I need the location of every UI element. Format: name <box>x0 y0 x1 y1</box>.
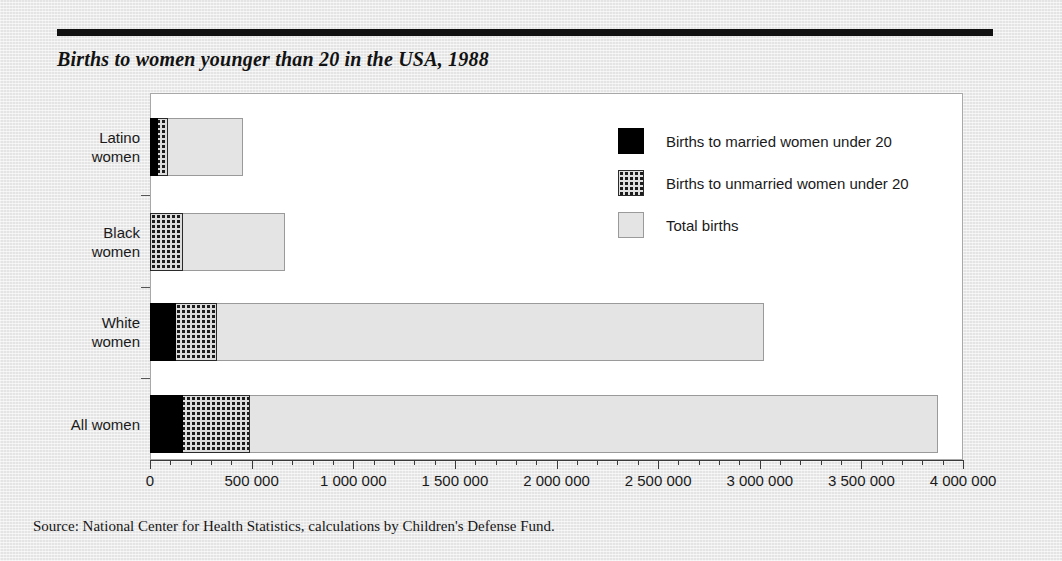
category-label: Whitewomen <box>0 313 140 351</box>
category-label-line: All women <box>0 415 140 434</box>
x-axis-major-tick <box>252 460 253 469</box>
x-axis-minor-tick <box>272 460 273 465</box>
solid-black-swatch-icon <box>618 128 644 154</box>
x-axis-minor-tick <box>231 460 232 465</box>
x-axis-minor-tick <box>678 460 679 465</box>
y-axis-tick <box>141 378 150 379</box>
x-axis-minor-tick <box>841 460 842 465</box>
category-label-line: White <box>0 313 140 332</box>
x-axis-tick-label: 4 000 000 <box>930 472 997 489</box>
x-axis-minor-tick <box>943 460 944 465</box>
x-axis-minor-tick <box>475 460 476 465</box>
category-label-line: Latino <box>0 128 140 147</box>
x-axis-minor-tick <box>313 460 314 465</box>
x-axis-major-tick <box>455 460 456 469</box>
x-axis-tick-label: 2 500 000 <box>625 472 692 489</box>
x-axis-minor-tick <box>170 460 171 465</box>
x-axis-tick-label: 500 000 <box>225 472 279 489</box>
x-axis-minor-tick <box>719 460 720 465</box>
page-title: Births to women younger than 20 in the U… <box>57 48 489 71</box>
bar-segment-married <box>150 303 176 361</box>
chart-legend: Births to married women under 20 Births … <box>618 120 909 246</box>
x-axis-minor-tick <box>414 460 415 465</box>
bar-segment-married <box>150 395 183 453</box>
bar-segment-married <box>150 118 158 176</box>
x-axis-major-tick <box>963 460 964 469</box>
legend-label-unmarried: Births to unmarried women under 20 <box>666 175 909 192</box>
x-axis-minor-tick <box>374 460 375 465</box>
x-axis-minor-tick <box>292 460 293 465</box>
x-axis-minor-tick <box>577 460 578 465</box>
bar-segment-total <box>150 303 764 361</box>
category-label-line: women <box>0 332 140 351</box>
x-axis-minor-tick <box>394 460 395 465</box>
bar-group <box>150 395 963 453</box>
x-axis-minor-tick <box>800 460 801 465</box>
x-axis-major-tick <box>353 460 354 469</box>
category-label-line: Black <box>0 223 140 242</box>
x-axis-tick-label: 1 500 000 <box>422 472 489 489</box>
bar-segment-total <box>150 395 938 453</box>
category-label: Blackwomen <box>0 223 140 261</box>
legend-label-total: Total births <box>666 217 739 234</box>
x-axis-major-tick <box>861 460 862 469</box>
x-axis-minor-tick <box>211 460 212 465</box>
category-label-line: women <box>0 242 140 261</box>
x-axis-minor-tick <box>617 460 618 465</box>
y-axis-tick <box>141 287 150 288</box>
x-axis-minor-tick <box>191 460 192 465</box>
x-axis-tick-label: 3 000 000 <box>726 472 793 489</box>
light-gray-swatch-icon <box>618 212 644 238</box>
x-axis-minor-tick <box>882 460 883 465</box>
x-axis-minor-tick <box>821 460 822 465</box>
x-axis-minor-tick <box>333 460 334 465</box>
category-label: All women <box>0 415 140 434</box>
x-axis-minor-tick <box>516 460 517 465</box>
legend-label-married: Births to married women under 20 <box>666 133 892 150</box>
x-axis-tick-label: 3 500 000 <box>828 472 895 489</box>
stippled-swatch-icon <box>618 170 644 196</box>
x-axis-minor-tick <box>780 460 781 465</box>
category-label-line: women <box>0 147 140 166</box>
x-axis-minor-tick <box>902 460 903 465</box>
legend-item-married: Births to married women under 20 <box>618 120 909 162</box>
legend-item-total: Total births <box>618 204 909 246</box>
x-axis-minor-tick <box>496 460 497 465</box>
x-axis-minor-tick <box>597 460 598 465</box>
x-axis-tick-label: 1 000 000 <box>320 472 387 489</box>
x-axis-tick-label: 0 <box>146 472 154 489</box>
x-axis-major-tick <box>760 460 761 469</box>
source-caption: Source: National Center for Health Stati… <box>33 518 555 535</box>
y-axis-tick <box>141 195 150 196</box>
bar-group <box>150 303 963 361</box>
x-axis-major-tick <box>557 460 558 469</box>
x-axis-minor-tick <box>739 460 740 465</box>
x-axis-major-tick <box>658 460 659 469</box>
x-axis-tick-label: 2 000 000 <box>523 472 590 489</box>
bar-segment-unmarried <box>150 213 183 271</box>
x-axis-minor-tick <box>638 460 639 465</box>
x-axis-minor-tick <box>699 460 700 465</box>
category-label: Latinowomen <box>0 128 140 166</box>
x-axis-minor-tick <box>536 460 537 465</box>
header-rule <box>57 29 993 36</box>
x-axis-major-tick <box>150 460 151 469</box>
x-axis-minor-tick <box>435 460 436 465</box>
legend-item-unmarried: Births to unmarried women under 20 <box>618 162 909 204</box>
x-axis-minor-tick <box>922 460 923 465</box>
